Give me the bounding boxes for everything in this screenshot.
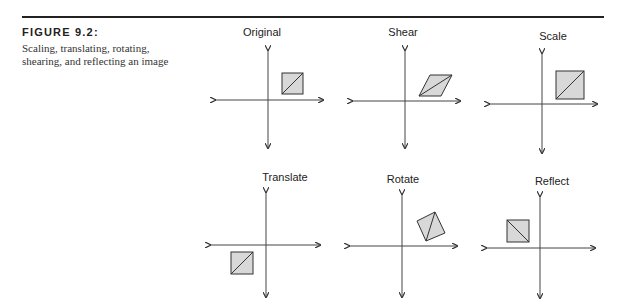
- panel-reflect: Reflect: [480, 160, 626, 305]
- axes-diagram: [190, 160, 340, 305]
- panel-translate: Translate: [190, 160, 340, 305]
- panel-shear: Shear: [340, 20, 490, 165]
- top-rule: [22, 16, 604, 18]
- panel-rotate: Rotate: [340, 160, 490, 305]
- axes-diagram: [340, 20, 490, 160]
- figure-caption: Scaling, translating, rotating, shearing…: [22, 42, 192, 68]
- axes-diagram: [480, 20, 626, 160]
- axes-diagram: [190, 20, 340, 160]
- axes-diagram: [480, 160, 626, 305]
- panel-original: Original: [190, 20, 340, 165]
- panel-scale: Scale: [480, 20, 626, 165]
- figure-label: FIGURE 9.2:: [22, 26, 99, 38]
- axes-diagram: [340, 160, 490, 305]
